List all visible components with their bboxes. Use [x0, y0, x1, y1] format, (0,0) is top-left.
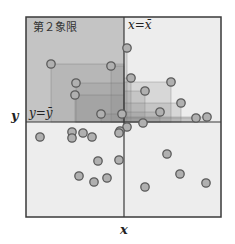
data-point	[107, 62, 115, 70]
data-point	[123, 44, 131, 52]
data-point	[71, 91, 79, 99]
y-axis-label: y	[10, 108, 20, 123]
data-point	[68, 134, 76, 142]
data-point	[118, 110, 126, 118]
data-point	[163, 150, 171, 158]
data-point	[75, 172, 83, 180]
data-point	[115, 156, 123, 164]
data-point	[47, 60, 55, 68]
data-point	[103, 174, 111, 182]
data-point	[115, 129, 123, 137]
data-point	[141, 87, 149, 95]
data-point	[90, 178, 98, 186]
data-point	[127, 74, 135, 82]
data-point	[141, 183, 149, 191]
data-point	[97, 110, 105, 118]
x-axis-label: x	[119, 222, 128, 237]
data-point	[88, 133, 96, 141]
data-point	[156, 108, 164, 116]
covariance-quadrant-diagram: 第２象限 x=x̄ y=ȳ y x	[0, 0, 235, 244]
mean-y-line-label: y=ȳ	[28, 106, 53, 120]
data-point	[176, 170, 184, 178]
data-point	[36, 133, 44, 141]
quadrant-2-label: 第２象限	[33, 20, 77, 34]
diagram-canvas: 第２象限 x=x̄ y=ȳ y x	[0, 0, 235, 244]
data-point	[139, 119, 147, 127]
data-point	[202, 179, 210, 187]
data-point	[72, 79, 80, 87]
mean-x-line-label: x=x̄	[128, 18, 152, 32]
data-point	[79, 129, 87, 137]
data-point	[203, 113, 211, 121]
data-point	[177, 99, 185, 107]
data-point	[192, 114, 200, 122]
data-point	[94, 157, 102, 165]
data-point	[167, 78, 175, 86]
